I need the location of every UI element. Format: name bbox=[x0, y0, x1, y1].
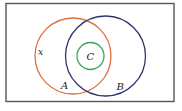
venn-diagram: x C A B bbox=[0, 0, 182, 111]
set-a-label: A bbox=[60, 80, 68, 91]
set-b-label: B bbox=[116, 81, 124, 92]
element-x-label: x bbox=[38, 47, 43, 57]
set-c-label: C bbox=[87, 51, 95, 62]
